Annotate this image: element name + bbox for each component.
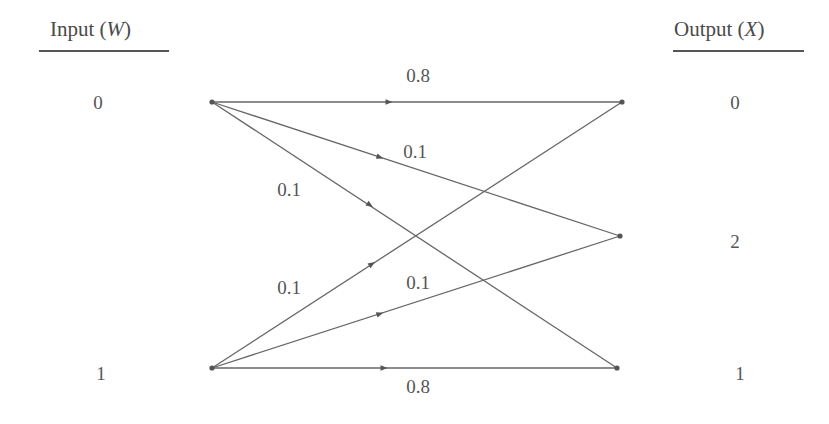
- output-node-0: [619, 99, 624, 104]
- input-node-0: [209, 99, 214, 104]
- prob-label-1-2: 0.1: [406, 272, 430, 294]
- arrow-icon: [361, 199, 370, 205]
- edge-1-2: [212, 236, 620, 368]
- prob-label-1-0: 0.1: [277, 277, 301, 299]
- prob-label-0-0: 0.8: [406, 65, 430, 87]
- channel-graph: [0, 0, 829, 424]
- edge-0-2: [212, 102, 620, 236]
- prob-label-0-1: 0.1: [277, 179, 301, 201]
- output-node-2: [617, 233, 622, 238]
- prob-label-1-1: 0.8: [406, 376, 430, 398]
- input-node-1: [209, 365, 214, 370]
- output-node-1: [614, 365, 619, 370]
- prob-label-0-2: 0.1: [403, 141, 427, 163]
